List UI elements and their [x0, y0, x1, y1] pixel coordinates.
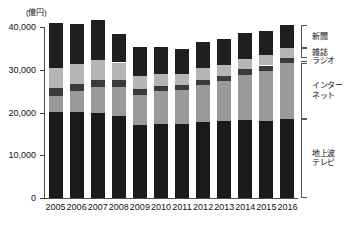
bar: [217, 39, 231, 198]
bar-segment: [280, 48, 294, 57]
bar-segment: [217, 76, 231, 81]
stacked-bar-chart: (億円) 010,00020,00030,00040,000 200520062…: [0, 0, 346, 238]
bar-segment: [70, 84, 84, 91]
bar-segment: [259, 66, 273, 72]
x-axis-tick-label: 2010: [151, 202, 171, 212]
legend-brace: [301, 119, 307, 198]
legend-item-label-line: 地上波: [312, 149, 335, 159]
bar-segment: [154, 74, 168, 86]
y-axis: 010,00020,00030,00040,000: [0, 0, 44, 238]
bar-segment: [70, 24, 84, 65]
bar: [70, 24, 84, 198]
bar-segment: [175, 85, 189, 90]
bar-segment: [91, 113, 105, 198]
bar-segment: [238, 69, 252, 75]
bar-segment: [70, 91, 84, 112]
bar-segment: [91, 87, 105, 113]
legend-brace: [301, 63, 307, 119]
bar: [238, 33, 252, 198]
y-axis-tick-label: 20,000: [8, 108, 36, 118]
legend-item-label: インターネット: [312, 81, 343, 100]
bar-segment: [112, 80, 126, 87]
bar-segment: [196, 42, 210, 69]
x-axis-tick-label: 2012: [193, 202, 213, 212]
bar-segment: [112, 34, 126, 63]
bar-segment: [154, 47, 168, 74]
bar-segment: [91, 20, 105, 61]
x-axis-tick-label: 2011: [172, 202, 191, 212]
bar: [49, 23, 63, 198]
bar-segment: [154, 91, 168, 124]
x-axis-line: [44, 198, 298, 199]
x-axis-tick-label: 2014: [235, 202, 255, 212]
bar-segment: [196, 80, 210, 85]
bar-segment: [259, 121, 273, 198]
bar-segment: [217, 81, 231, 121]
legend-brace: [301, 61, 307, 62]
bar-segment: [49, 68, 63, 89]
x-axis-tick-label: 2013: [214, 202, 234, 212]
bar-segment: [259, 55, 273, 65]
bar-segment: [238, 59, 252, 70]
bar: [280, 25, 294, 198]
bar-segment: [280, 119, 294, 198]
bar: [91, 20, 105, 198]
legend-brace: [301, 48, 307, 57]
bar-segment: [133, 125, 147, 198]
chart-legend: 新聞雑誌ラジオインターネット地上波テレビ: [300, 24, 346, 204]
bar-segment: [91, 60, 105, 80]
legend-item-label: 地上波テレビ: [312, 149, 335, 168]
x-axis: 2005200620072008200920102011201220132014…: [45, 202, 298, 218]
legend-item-label-line: ネット: [312, 91, 343, 101]
bar-segment: [112, 116, 126, 198]
bar-segment: [196, 85, 210, 122]
bar: [175, 49, 189, 198]
bar-segment: [70, 64, 84, 84]
bar-segment: [133, 47, 147, 76]
x-axis-tick-label: 2016: [277, 202, 297, 212]
bar-segment: [91, 80, 105, 87]
bar-segment: [259, 71, 273, 121]
bar-segment: [154, 124, 168, 198]
bar-segment: [49, 112, 63, 198]
bar-segment: [49, 23, 63, 67]
bar-segment: [70, 112, 84, 198]
legend-item-label: ラジオ: [312, 56, 335, 66]
bar-segment: [49, 88, 63, 96]
bar-segment: [175, 49, 189, 74]
bar-segment: [280, 25, 294, 48]
bar-segment: [133, 89, 147, 95]
bar-segment: [154, 86, 168, 92]
x-axis-tick-label: 2005: [46, 202, 66, 212]
legend-item-label: 新聞: [312, 32, 327, 42]
bar-segment: [238, 75, 252, 120]
x-axis-tick-label: 2009: [130, 202, 150, 212]
bar-segment: [259, 31, 273, 55]
bar-segment: [280, 63, 294, 119]
bar-segment: [49, 96, 63, 112]
bar: [259, 31, 273, 198]
x-axis-tick-label: 2008: [109, 202, 129, 212]
bar: [112, 34, 126, 198]
bar: [154, 47, 168, 198]
legend-brace: [301, 25, 307, 48]
x-axis-tick-label: 2006: [67, 202, 87, 212]
bar-segment: [196, 68, 210, 79]
bar-segment: [112, 87, 126, 116]
bar-segment: [112, 63, 126, 81]
plot-area: [45, 27, 298, 198]
legend-item-label-line: テレビ: [312, 158, 335, 168]
bar-segment: [175, 74, 189, 85]
bar-segment: [217, 121, 231, 198]
y-axis-tick-label: 10,000: [8, 150, 36, 160]
bar-segment: [175, 124, 189, 198]
bar-segment: [133, 76, 147, 89]
x-axis-tick-label: 2007: [88, 202, 108, 212]
bar-segment: [238, 120, 252, 198]
bar: [133, 47, 147, 198]
bar-segment: [133, 95, 147, 125]
bar: [196, 42, 210, 198]
bar-segment: [175, 90, 189, 125]
y-axis-tick-label: 40,000: [8, 22, 36, 32]
bar-segment: [217, 39, 231, 66]
